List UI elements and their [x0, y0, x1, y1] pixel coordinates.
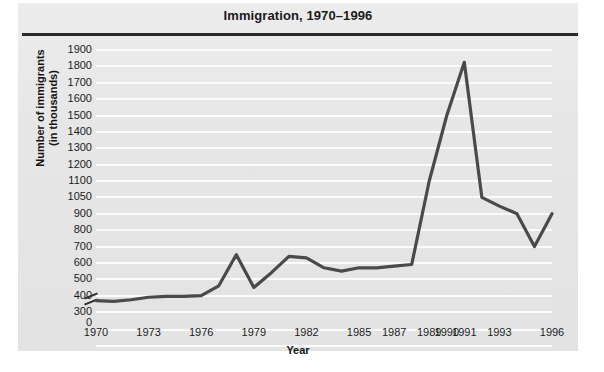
y-axis-tick-label: 1700 — [48, 77, 92, 88]
y-axis-tick-label: 800 — [48, 224, 92, 235]
x-axis-tick-label: 1973 — [136, 326, 160, 338]
y-axis-tick-label: 1400 — [48, 126, 92, 137]
x-axis-tick-label: 1993 — [487, 326, 511, 338]
y-axis-tick-label: 1800 — [48, 60, 92, 71]
y-axis-tick-label: 1050 — [48, 191, 92, 202]
y-axis-tick-label: 1500 — [48, 110, 92, 121]
chart-figure: Immigration, 1970–1996 Number of immigra… — [0, 0, 604, 372]
x-axis-tick-label: 1970 — [84, 326, 108, 338]
x-axis-tick-label: 1991 — [452, 326, 476, 338]
y-axis-tick-label: 1600 — [48, 93, 92, 104]
y-axis-tick-label: 1900 — [48, 44, 92, 55]
x-axis-tick-label: 1982 — [294, 326, 318, 338]
y-axis-tick-labels: 3004005006007008009001050110012001300140… — [44, 50, 92, 312]
y-axis-tick-label: 700 — [48, 241, 92, 252]
x-axis-tick-label: 1987 — [382, 326, 406, 338]
y-axis-tick-label: 600 — [48, 257, 92, 268]
y-axis-tick-label: 1300 — [48, 142, 92, 153]
x-axis-title: Year — [18, 344, 578, 356]
x-axis-tick-label: 1996 — [540, 326, 564, 338]
y-axis-tick-label: 500 — [48, 273, 92, 284]
title-divider — [22, 33, 578, 36]
x-axis-tick-labels: 1970197319761979198219851987198919901991… — [96, 326, 556, 342]
x-axis-tick-label: 1985 — [347, 326, 371, 338]
x-axis-tick-label: 1979 — [242, 326, 266, 338]
y-axis-tick-label: 1200 — [48, 159, 92, 170]
immigration-line — [96, 62, 552, 301]
x-axis-tick-label: 1976 — [189, 326, 213, 338]
y-axis-tick-label: 900 — [48, 208, 92, 219]
plot-area — [96, 50, 552, 312]
y-axis-tick-label: 1100 — [48, 175, 92, 186]
data-series-line — [96, 50, 552, 312]
chart-title: Immigration, 1970–1996 — [18, 8, 578, 23]
